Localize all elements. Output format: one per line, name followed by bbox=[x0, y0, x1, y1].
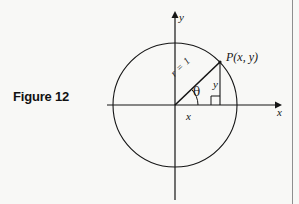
page-margin-rule bbox=[292, 0, 293, 204]
opposite-side-label: y bbox=[213, 78, 218, 90]
figure-panel: Figure 12 y x P(x, y) r = 1 θ y x bbox=[0, 0, 299, 204]
point-p-marker bbox=[218, 60, 221, 63]
x-axis-label: x bbox=[277, 106, 282, 118]
adjacent-side-label: x bbox=[186, 110, 191, 122]
theta-angle-label: θ bbox=[193, 85, 200, 99]
figure-caption: Figure 12 bbox=[13, 89, 69, 104]
right-angle-marker bbox=[211, 96, 220, 105]
y-axis-label: y bbox=[179, 11, 184, 23]
point-p-label: P(x, y) bbox=[226, 50, 258, 65]
